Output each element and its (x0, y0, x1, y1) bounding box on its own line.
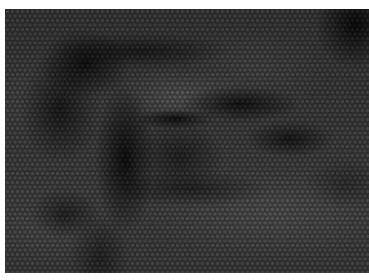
eye-photo (5, 9, 369, 273)
hexagonal-dot-screen (5, 9, 369, 273)
